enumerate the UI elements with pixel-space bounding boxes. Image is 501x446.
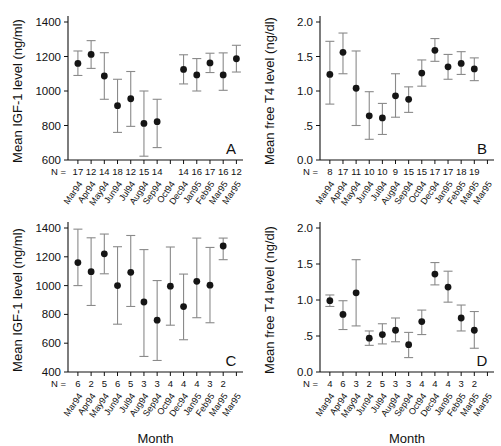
n-value-label: 3 [141,378,146,389]
data-point-group [126,72,135,127]
y-tick-label: 1200 [35,51,61,63]
data-point-group [232,45,241,72]
y-tick-label: 0.0 [297,366,313,378]
n-prefix-label: N = [51,166,67,177]
n-value-label: 2 [367,378,372,389]
n-value-label: 3 [406,378,411,389]
data-marker [154,317,161,324]
data-marker [114,282,121,289]
data-point-group [365,92,374,140]
data-marker [154,118,161,125]
data-point-group [153,281,162,361]
n-value-label: 4 [194,378,199,389]
n-value-label: 15 [416,166,427,177]
n-value-label: 4 [432,378,437,389]
n-value-label: 5 [128,378,133,389]
y-tick-label: 400 [42,366,61,378]
plot-panel-a: 600800100012001400AMean IGF-1 level (ng/… [0,0,250,215]
data-point-group [205,247,214,322]
data-point-group [100,53,109,100]
n-value-label: 3 [207,378,212,389]
n-value-label: 15 [139,166,150,177]
data-marker [75,60,82,67]
y-tick-label: .5 [303,120,313,132]
n-value-label: 3 [155,378,160,389]
n-value-label: 6 [340,378,345,389]
data-marker [326,297,333,304]
data-marker [233,55,240,62]
data-point-group [205,53,214,72]
data-marker [180,66,187,73]
n-value-label: 18 [456,166,467,177]
y-tick-label: 1400 [35,16,61,28]
data-marker [392,327,399,334]
n-value-label: 10 [377,166,388,177]
y-tick-label: 1000 [35,85,61,97]
data-marker [101,73,108,80]
n-prefix-label: N = [51,378,67,389]
y-tick-label: 1.5 [297,51,313,63]
data-point-group [192,238,201,318]
data-marker [220,72,227,79]
n-value-label: 4 [327,378,332,389]
data-marker [220,243,227,250]
data-point-group [338,301,347,330]
data-point-group [179,55,188,84]
plot-panel-c: 400600800100012001400CMean IGF-1 level (… [0,215,250,446]
data-marker [207,59,214,66]
data-marker [114,102,121,109]
data-point-group [444,271,453,302]
y-tick-label: 800 [42,308,61,320]
data-point-group [444,54,453,79]
n-value-label: 16 [218,166,229,177]
data-marker [445,63,452,70]
n-value-label: 6 [115,378,120,389]
data-marker [405,96,412,103]
n-value-label: 14 [99,166,110,177]
y-tick-label: 2.0 [297,222,313,234]
data-marker [127,95,134,102]
n-value-label: 12 [231,166,242,177]
y-tick-label: 800 [42,120,61,132]
data-marker [432,47,439,54]
data-marker [353,289,360,296]
data-marker [432,271,439,278]
data-marker [366,112,373,119]
data-point-group [87,41,96,69]
data-marker [180,303,187,310]
n-value-label: 14 [152,166,163,177]
data-marker [445,284,452,291]
n-value-label: 4 [181,378,186,389]
n-value-label: 10 [364,166,375,177]
data-marker [405,341,412,348]
n-value-label: 17 [205,166,216,177]
data-point-group [378,324,387,344]
data-marker [458,315,465,322]
y-tick-label: 1.0 [297,85,313,97]
data-point-group [378,103,387,134]
data-point-group [219,238,228,260]
n-value-label: 11 [351,166,361,177]
data-marker [340,311,347,318]
y-tick-label: 1000 [35,280,61,292]
data-marker [193,278,200,285]
data-point-group [100,234,109,274]
data-marker [75,259,82,266]
y-tick-label: 600 [42,154,61,166]
y-axis-label: Mean free T4 level (ng/dl) [262,17,277,165]
data-point-group [126,235,135,306]
y-tick-label: 1.0 [297,294,313,306]
n-value-label: 3 [393,378,398,389]
data-point-group [325,295,334,307]
n-value-label: 16 [191,166,202,177]
y-tick-label: 0.0 [297,154,313,166]
data-point-group [404,332,413,357]
n-value-label: 15 [403,166,414,177]
n-value-label: 3 [353,378,358,389]
n-value-label: 19 [469,166,480,177]
panel-d: 0.0.51.01.52.0DMean free T4 level (ng/dl… [250,215,501,446]
y-axis-label: Mean free T4 level (ng/dl) [262,226,277,374]
data-marker [353,85,360,92]
y-tick-label: 1200 [35,251,61,263]
data-marker [141,299,148,306]
